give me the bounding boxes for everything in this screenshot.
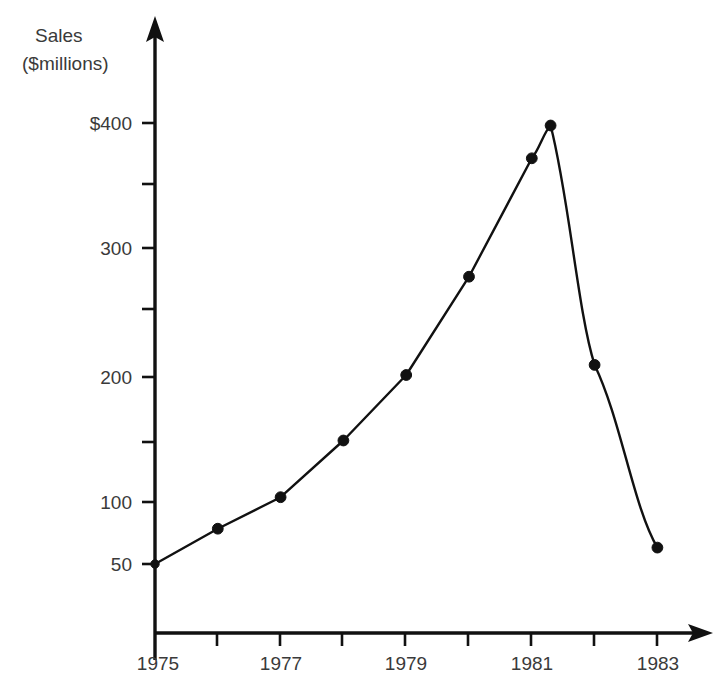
y-axis-title-line2: ($millions) xyxy=(22,53,109,74)
sales-series-line xyxy=(155,126,657,565)
x-axis xyxy=(155,624,713,642)
y-tick-label-50: 50 xyxy=(111,554,132,575)
y-axis-tick-labels: $400 300 200 100 50 xyxy=(90,113,132,575)
data-point xyxy=(151,560,159,568)
x-axis-tick-labels: 1975 1977 1979 1981 1983 xyxy=(137,653,679,674)
x-tick-label-1981: 1981 xyxy=(511,653,553,674)
x-tick-label-1979: 1979 xyxy=(385,653,427,674)
y-tick-label-300: 300 xyxy=(100,238,132,259)
data-point xyxy=(589,360,600,371)
y-tick-label-200: 200 xyxy=(100,367,132,388)
data-point xyxy=(652,542,663,553)
x-tick-label-1983: 1983 xyxy=(637,653,679,674)
sales-line-chart: Sales ($millions) $400 300 200 xyxy=(0,0,725,698)
chart-container: Sales ($millions) $400 300 200 xyxy=(0,0,725,698)
x-tick-label-1977: 1977 xyxy=(260,653,302,674)
y-tick-label-400: $400 xyxy=(90,113,132,134)
data-point xyxy=(526,153,537,164)
sales-series-markers xyxy=(151,120,663,568)
data-point xyxy=(545,120,556,131)
x-tick-label-1975: 1975 xyxy=(137,653,179,674)
data-point xyxy=(338,435,349,446)
data-point xyxy=(464,271,475,282)
y-axis-title-line1: Sales xyxy=(35,25,83,46)
y-tick-label-100: 100 xyxy=(100,492,132,513)
data-point xyxy=(275,492,286,503)
data-point xyxy=(401,370,412,381)
data-point xyxy=(212,523,223,534)
